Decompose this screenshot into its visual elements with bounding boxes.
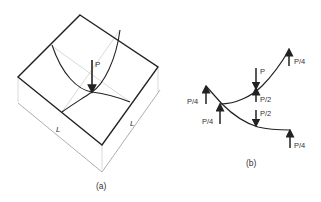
label-applied: P <box>260 67 265 76</box>
caption-b: (b) <box>246 158 257 168</box>
diagram-canvas: P L L (a) P/4 P/4 P/4 P/4 P P/2 <box>0 0 321 202</box>
label-mid-upper: P/2 <box>260 95 271 104</box>
dimension-right <box>102 90 160 172</box>
plate-top-face <box>18 15 158 145</box>
plate-block: P L L (a) <box>18 15 160 191</box>
strip-b-upper <box>220 50 289 104</box>
label-left-upper: P/4 <box>187 97 198 106</box>
label-top-right: P/4 <box>294 57 305 66</box>
caption-a: (a) <box>96 181 107 191</box>
label-left-lower: P/4 <box>202 117 213 126</box>
load-label-p: P <box>95 60 100 69</box>
label-bottom-right: P/4 <box>294 141 305 150</box>
dimension-left <box>18 103 102 172</box>
strip-b-lower <box>206 86 290 130</box>
dimension-right-label: L <box>130 119 134 128</box>
free-body-diagram: P/4 P/4 P/4 P/4 P P/2 P/2 (b) <box>187 50 305 168</box>
label-mid-lower: P/2 <box>260 109 271 118</box>
hidden-lines <box>18 30 158 170</box>
dimension-left-label: L <box>56 125 60 134</box>
